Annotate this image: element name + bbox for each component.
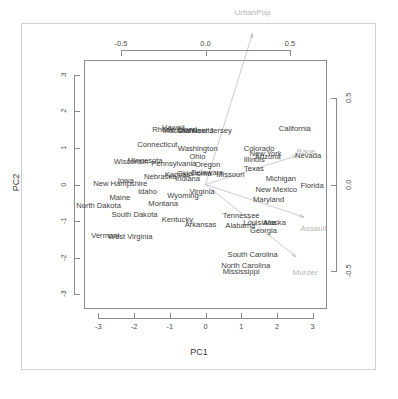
axis-tick-label: 2 bbox=[60, 97, 68, 125]
state-label: North Carolina bbox=[221, 262, 270, 270]
state-label: Michigan bbox=[266, 175, 296, 183]
axis-tick-label: -1 bbox=[156, 323, 184, 331]
axis-tick bbox=[206, 313, 207, 319]
state-label: Utah bbox=[178, 127, 194, 135]
axis-tick bbox=[170, 313, 171, 319]
axis-tick-label: 0.5 bbox=[345, 84, 353, 112]
axis-tick bbox=[121, 50, 122, 56]
axis-tick bbox=[74, 111, 80, 112]
state-label: Idaho bbox=[138, 188, 157, 196]
axis-tick-label: -2 bbox=[120, 323, 148, 331]
axis-tick bbox=[331, 98, 337, 99]
state-label: New Mexico bbox=[256, 186, 297, 194]
state-label: Louisiana bbox=[243, 220, 276, 228]
axis-tick-label: 0.0 bbox=[192, 40, 220, 48]
state-label: Montana bbox=[148, 200, 178, 208]
state-label: Wyoming bbox=[167, 192, 199, 200]
state-label: Georgia bbox=[250, 227, 277, 235]
axis-tick bbox=[313, 313, 314, 319]
axis-tick bbox=[290, 50, 291, 56]
state-label: Wisconsin bbox=[114, 158, 149, 166]
state-label: Kentucky bbox=[162, 216, 193, 224]
axis-tick-label: -1 bbox=[60, 207, 68, 235]
state-label: Connecticut bbox=[137, 141, 177, 149]
state-label: Washington bbox=[178, 145, 218, 153]
axis-tick bbox=[74, 294, 80, 295]
variable-label: Rape bbox=[296, 148, 315, 156]
x-axis-title: PC1 bbox=[0, 348, 398, 357]
axis-tick bbox=[206, 50, 207, 56]
state-label: Nebraska bbox=[144, 174, 177, 182]
axis-tick-label: -0.5 bbox=[345, 257, 353, 285]
state-label: New York bbox=[250, 151, 282, 159]
state-label: New Hampshire bbox=[93, 180, 147, 188]
state-label: Missouri bbox=[216, 171, 244, 179]
axis-tick-label: 1 bbox=[60, 134, 68, 162]
axis-tick bbox=[134, 313, 135, 319]
axis-tick bbox=[277, 313, 278, 319]
axis-tick-label: -0.5 bbox=[107, 40, 135, 48]
state-label: Pennsylvania bbox=[151, 160, 196, 168]
axis-tick-label: 1 bbox=[227, 323, 255, 331]
axis-tick bbox=[331, 185, 337, 186]
axis-tick-label: 2 bbox=[263, 323, 291, 331]
state-label: Florida bbox=[300, 182, 323, 190]
state-label: South Dakota bbox=[111, 211, 157, 219]
variable-label: Murder bbox=[292, 269, 317, 277]
axis-tick-label: 0.5 bbox=[276, 40, 304, 48]
variable-label: Assault bbox=[300, 225, 326, 233]
axis-tick bbox=[331, 271, 337, 272]
state-label: New Jersey bbox=[192, 128, 232, 136]
state-label: South Carolina bbox=[228, 251, 278, 259]
axis-tick-label: 0.0 bbox=[345, 170, 353, 198]
axis-tick-label: -3 bbox=[84, 323, 112, 331]
y-axis-title: PC2 bbox=[12, 163, 21, 203]
axis-tick bbox=[74, 148, 80, 149]
state-label: Tennessee bbox=[223, 212, 260, 220]
axis-tick-label: -3 bbox=[60, 280, 68, 308]
axis-tick-label: 3 bbox=[60, 60, 68, 88]
axis-tick-label: 0 bbox=[60, 170, 68, 198]
state-label: West Virginia bbox=[108, 233, 152, 241]
axis-tick bbox=[74, 258, 80, 259]
axis-tick-label: 0 bbox=[192, 323, 220, 331]
state-label: California bbox=[279, 125, 311, 133]
axis-tick-label: 3 bbox=[299, 323, 327, 331]
state-label: Texas bbox=[244, 166, 264, 174]
biplot-page: AlabamaAlaskaArizonaArkansasCaliforniaCo… bbox=[0, 0, 398, 399]
axis-tick bbox=[74, 221, 80, 222]
axis-tick bbox=[241, 313, 242, 319]
state-label: Oklahoma bbox=[177, 170, 212, 178]
axis-tick bbox=[74, 185, 80, 186]
axis-tick-label: -2 bbox=[60, 243, 68, 271]
axis-tick bbox=[74, 75, 80, 76]
axis-tick bbox=[98, 313, 99, 319]
variable-label: UrbanPop bbox=[234, 9, 270, 17]
state-label: Maryland bbox=[253, 196, 284, 204]
state-label: Oregon bbox=[195, 161, 220, 169]
